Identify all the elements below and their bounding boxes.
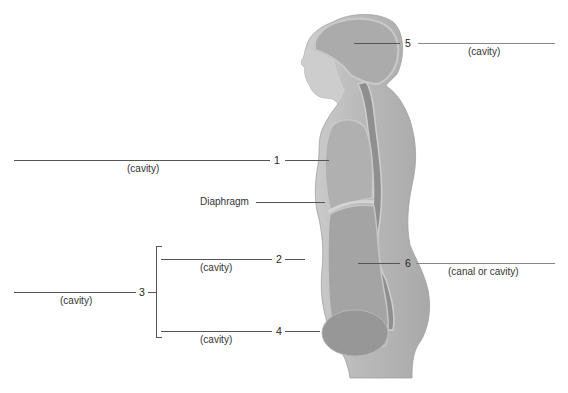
diaphragm-label: Diaphragm — [200, 197, 249, 207]
leader-line-diaphragm — [256, 202, 325, 203]
leader-line-4 — [285, 331, 320, 332]
label-number-2: 2 — [276, 254, 282, 264]
bracket-3 — [156, 246, 162, 338]
label-number-5: 5 — [405, 38, 411, 48]
leader-line-1 — [285, 160, 329, 161]
leader-line-5 — [354, 43, 400, 44]
anatomical-figure — [0, 0, 568, 393]
thoracic-cavity — [325, 120, 373, 210]
bracket-stem — [148, 292, 156, 293]
answer-line-6[interactable] — [416, 263, 555, 264]
leader-line-6 — [358, 263, 400, 264]
answer-hint-5: (cavity) — [468, 47, 500, 57]
answer-line-4[interactable] — [161, 331, 272, 332]
label-number-4: 4 — [276, 326, 282, 336]
answer-hint-2: (cavity) — [200, 263, 232, 273]
answer-line-1[interactable] — [14, 160, 270, 161]
label-number-6: 6 — [405, 258, 411, 268]
answer-hint-6: (canal or cavity) — [448, 267, 519, 277]
answer-line-5[interactable] — [418, 43, 555, 44]
label-number-3: 3 — [139, 287, 145, 297]
answer-line-3[interactable] — [14, 292, 136, 293]
answer-hint-1: (cavity) — [127, 164, 159, 174]
leader-line-2 — [285, 259, 305, 260]
answer-hint-4: (cavity) — [200, 335, 232, 345]
answer-hint-3: (cavity) — [60, 296, 92, 306]
label-number-1: 1 — [274, 155, 280, 165]
pelvic-cavity — [322, 310, 388, 356]
answer-line-2[interactable] — [161, 259, 272, 260]
